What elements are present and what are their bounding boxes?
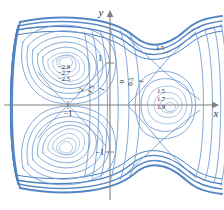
contour-curve [43, 125, 90, 163]
contour-curve [16, 31, 222, 59]
y-axis-arrowhead [107, 10, 114, 17]
y-tick-label-neg-1: −1 [95, 148, 104, 157]
contour-curve [221, 24, 224, 186]
contour-label: 1.5 [157, 87, 166, 94]
contour-label: 1.9 [157, 103, 166, 110]
contour-label: −2.5 [58, 75, 71, 82]
contour-curve [16, 151, 222, 179]
contour-band-lower-left-inner [48, 129, 85, 158]
y-axis-label: y [98, 6, 104, 18]
contour-plot-canvas: y x 1 −1 −1 −2.9 −2.7 −2.5 −2 −1.5 −1 0 … [0, 0, 224, 210]
contour-curve [165, 103, 176, 112]
x-axis-label: x [213, 107, 219, 119]
contour-plot-figure: y x 1 −1 −1 −2.9 −2.7 −2.5 −2 −1.5 −1 0 … [0, 0, 224, 210]
contour-curve [59, 142, 72, 153]
contour-label: −1 [96, 86, 105, 95]
contour-label: 0 [118, 79, 126, 84]
y-tick-label-1: 1 [98, 54, 102, 63]
contour-label: 0.5 [126, 76, 134, 86]
contour-label: 1.7 [157, 95, 166, 102]
x-tick-label-neg-1: −1 [64, 109, 73, 118]
contour-label: 1 [137, 79, 145, 84]
contour-label: 1.5 [156, 44, 165, 51]
